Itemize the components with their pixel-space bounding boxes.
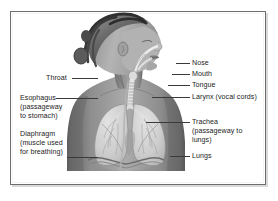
respiratory-system-illustration (66, 12, 186, 171)
label-diaphragm-line-1: (muscle used (20, 139, 63, 148)
label-mouth-line-0: Mouth (192, 70, 212, 79)
label-mouth: Mouth (192, 70, 212, 79)
hair-puff (74, 48, 88, 64)
diagram-page: Throat Esophagus (passageway to stomach)… (0, 0, 278, 201)
leader-nose (176, 63, 190, 64)
label-tongue: Tongue (192, 81, 216, 90)
leader-throat (72, 78, 98, 79)
label-lungs: Lungs (192, 152, 212, 161)
label-diaphragm-line-0: Diaphragm (20, 130, 63, 139)
label-diaphragm-line-2: for breathing) (20, 148, 63, 157)
leader-mouth (172, 74, 190, 75)
label-esophagus-line-2: to stomach) (20, 112, 62, 121)
label-diaphragm: Diaphragm (muscle used for breathing) (20, 130, 63, 158)
label-esophagus-line-1: (passageway (20, 103, 62, 112)
leader-trachea (146, 122, 190, 123)
label-larynx: Larynx (vocal cords) (192, 93, 257, 102)
label-lungs-line-0: Lungs (192, 152, 212, 161)
leader-diaphragm (67, 157, 98, 158)
hair-knot (81, 30, 91, 42)
label-trachea-line-0: Trachea (192, 118, 242, 127)
child-anatomy-figure (66, 12, 186, 171)
ear (118, 42, 128, 56)
label-trachea-line-2: lungs) (192, 136, 242, 145)
leader-tongue (168, 85, 190, 86)
label-tongue-line-0: Tongue (192, 81, 216, 90)
leader-lungs (170, 156, 190, 157)
label-nose: Nose (192, 59, 209, 68)
leader-esophagus (56, 98, 98, 99)
label-larynx-line-0: Larynx (vocal cords) (192, 93, 257, 102)
leader-larynx (152, 97, 190, 98)
trachea-tube (130, 81, 132, 106)
label-nose-line-0: Nose (192, 59, 209, 68)
label-throat-line-0: Throat (46, 74, 67, 83)
label-trachea: Trachea (passageway to lungs) (192, 118, 242, 146)
label-throat: Throat (46, 74, 67, 83)
label-trachea-line-1: (passageway to (192, 127, 242, 136)
